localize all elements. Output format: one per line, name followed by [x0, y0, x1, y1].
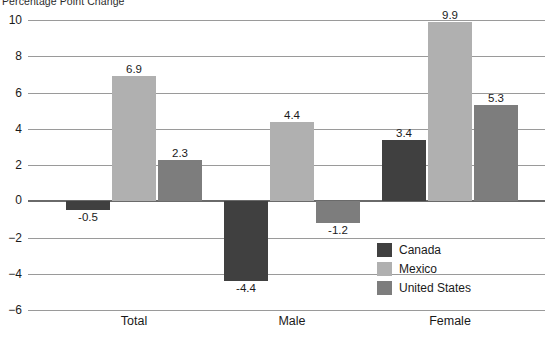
chart-legend: Canada Mexico United States: [377, 242, 471, 295]
legend-item-united-states[interactable]: United States: [377, 280, 471, 295]
y-axis-tick-label: 0: [15, 193, 22, 207]
bar-value-label: 5.3: [488, 92, 504, 104]
y-axis-tick-label: 10: [9, 13, 22, 27]
legend-label-canada: Canada: [399, 243, 441, 257]
y-axis-tick-label: 4: [15, 122, 22, 136]
x-axis-category-label-female: Female: [376, 314, 524, 328]
y-axis-tick-label: −4: [8, 267, 22, 281]
bar-value-label: 9.9: [442, 9, 458, 21]
y-axis-tick-label: 6: [15, 86, 22, 100]
bar-chart: Percentage Point Change 1086420−2−4−6-0.…: [0, 0, 552, 339]
legend-label-mexico: Mexico: [399, 262, 437, 276]
bar-value-label: 6.9: [126, 63, 142, 75]
bar-mexico-male[interactable]: 4.4: [270, 122, 314, 202]
bar-value-label: -1.2: [328, 224, 348, 236]
legend-swatch-united-states: [377, 281, 392, 295]
y-axis-tick-label: 2: [15, 158, 22, 172]
bar-mexico-female[interactable]: 9.9: [428, 22, 472, 201]
bar-value-label: 4.4: [284, 109, 300, 121]
chart-title: Percentage Point Change: [2, 0, 125, 7]
bar-value-label: -4.4: [236, 282, 256, 294]
bar-value-label: 3.4: [396, 127, 412, 139]
y-axis-tick-label: −2: [8, 231, 22, 245]
x-axis-category-label-total: Total: [60, 314, 208, 328]
legend-item-canada[interactable]: Canada: [377, 242, 471, 257]
bar-mexico-total[interactable]: 6.9: [112, 76, 156, 201]
legend-swatch-mexico: [377, 262, 392, 276]
x-axis-category-label-male: Male: [218, 314, 366, 328]
legend-swatch-canada: [377, 243, 392, 257]
bar-group-total: -0.56.92.3Total: [60, 20, 208, 310]
legend-item-mexico[interactable]: Mexico: [377, 261, 471, 276]
y-axis-tick-label: 8: [15, 49, 22, 63]
bar-canada-male[interactable]: -4.4: [224, 201, 268, 281]
bar-canada-total[interactable]: -0.5: [66, 201, 110, 210]
gridline--6: −6: [28, 310, 545, 311]
bar-group-male: -4.44.4-1.2Male: [218, 20, 366, 310]
bar-united-states-total[interactable]: 2.3: [158, 160, 202, 202]
bar-united-states-female[interactable]: 5.3: [474, 105, 518, 201]
y-axis-tick-label: −6: [8, 303, 22, 317]
bar-canada-female[interactable]: 3.4: [382, 140, 426, 202]
bar-united-states-male[interactable]: -1.2: [316, 201, 360, 223]
bar-value-label: -0.5: [78, 211, 98, 223]
legend-label-united-states: United States: [399, 281, 471, 295]
bar-value-label: 2.3: [172, 147, 188, 159]
